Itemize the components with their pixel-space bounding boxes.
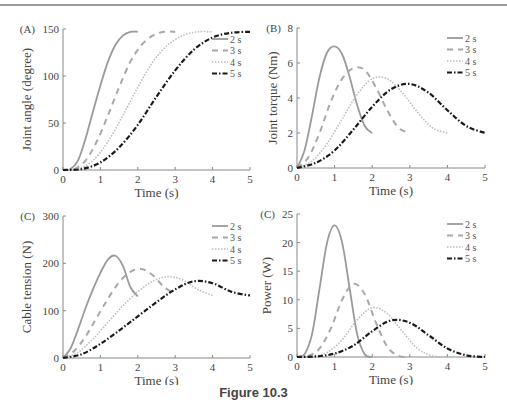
x-tick-label: 5 xyxy=(247,173,253,185)
x-axis-label: Time (s) xyxy=(369,183,413,198)
x-tick-label: 1 xyxy=(98,361,104,373)
legend-label: 2 s xyxy=(465,33,477,44)
x-tick-label: 4 xyxy=(445,360,451,372)
y-tick-label: 0 xyxy=(54,352,60,364)
legend-label: 4 s xyxy=(465,56,477,67)
figure-caption: Figure 10.3 xyxy=(0,385,507,400)
x-tick-label: 2 xyxy=(369,360,375,372)
legend-label: 4 s xyxy=(230,244,242,255)
chart-panel-2: 01234502468(B)Time (s)Joint torque (Nm)2… xyxy=(265,22,488,198)
series-line-3s xyxy=(63,32,175,171)
chart-panel-3: 0123450100200300(C)Time (s)Cable tension… xyxy=(19,210,253,385)
x-tick-label: 3 xyxy=(172,361,178,373)
y-tick-label: 5 xyxy=(288,322,294,334)
y-tick-label: 300 xyxy=(43,210,60,222)
legend-label: 3 s xyxy=(230,232,242,243)
x-axis-label: Time (s) xyxy=(135,373,179,385)
x-tick-label: 4 xyxy=(210,361,216,373)
x-tick-label: 4 xyxy=(210,173,216,185)
series-line-5s xyxy=(63,32,250,170)
x-tick-label: 1 xyxy=(332,171,338,183)
y-tick-label: 15 xyxy=(282,265,294,277)
legend-label: 2 s xyxy=(230,221,242,232)
chart-panel-1: 012345050100150(A)Time (s)Joint angle (d… xyxy=(19,23,253,200)
y-tick-label: 2 xyxy=(288,127,294,139)
figure-panels: 012345050100150(A)Time (s)Joint angle (d… xyxy=(0,0,507,385)
series-line-2s xyxy=(297,225,372,357)
legend-label: 5 s xyxy=(230,255,242,266)
y-tick-label: 25 xyxy=(282,208,294,220)
panel-label: (C) xyxy=(260,208,275,221)
legend-label: 3 s xyxy=(230,45,242,56)
legend-label: 4 s xyxy=(465,242,477,253)
x-tick-label: 2 xyxy=(135,361,141,373)
y-tick-label: 200 xyxy=(43,257,60,269)
y-axis-label: Joint torque (Nm) xyxy=(265,51,280,144)
y-axis-label: Cable tension (N) xyxy=(19,241,34,333)
panel-label: (C) xyxy=(20,210,35,223)
legend-label: 5 s xyxy=(465,253,477,264)
y-tick-label: 4 xyxy=(288,92,294,104)
legend-label: 5 s xyxy=(465,67,477,78)
y-tick-label: 0 xyxy=(288,351,294,363)
legend-label: 2 s xyxy=(465,219,477,230)
x-tick-label: 2 xyxy=(135,173,141,185)
legend-label: 5 s xyxy=(230,68,242,79)
series-line-3s xyxy=(63,269,175,358)
x-tick-label: 3 xyxy=(172,173,178,185)
y-tick-label: 150 xyxy=(43,23,60,35)
x-tick-label: 3 xyxy=(407,171,413,183)
x-axis-label: Time (s) xyxy=(135,185,179,200)
series-line-2s xyxy=(63,32,138,171)
x-tick-label: 1 xyxy=(98,173,104,185)
x-tick-label: 1 xyxy=(332,360,338,372)
series-line-2s xyxy=(63,255,138,358)
y-tick-label: 0 xyxy=(54,164,60,176)
x-tick-label: 0 xyxy=(294,360,300,372)
x-tick-label: 5 xyxy=(247,361,253,373)
legend-label: 3 s xyxy=(465,230,477,241)
y-tick-label: 100 xyxy=(43,305,60,317)
panel-label: (B) xyxy=(266,22,281,35)
y-tick-label: 20 xyxy=(282,237,294,249)
y-tick-label: 10 xyxy=(282,294,294,306)
x-tick-label: 0 xyxy=(60,361,66,373)
x-tick-label: 0 xyxy=(60,173,66,185)
x-tick-label: 5 xyxy=(482,171,488,183)
series-line-5s xyxy=(297,84,485,168)
y-tick-label: 6 xyxy=(288,57,294,69)
x-tick-label: 4 xyxy=(445,171,451,183)
y-axis-label: Joint angle (degree) xyxy=(19,48,34,151)
panel-label: (A) xyxy=(20,23,36,36)
x-axis-label: Time (s) xyxy=(369,372,413,385)
y-tick-label: 50 xyxy=(48,117,60,129)
x-tick-label: 5 xyxy=(482,360,488,372)
legend-label: 2 s xyxy=(230,34,242,45)
y-axis-label: Power (W) xyxy=(259,257,274,314)
y-tick-label: 100 xyxy=(43,70,60,82)
x-tick-label: 2 xyxy=(369,171,375,183)
chart-panel-4: 0123450510152025(C)Time (s)Power (W)2 s3… xyxy=(259,208,488,385)
x-tick-label: 0 xyxy=(294,171,300,183)
y-tick-label: 0 xyxy=(288,162,294,174)
y-tick-label: 8 xyxy=(288,22,294,34)
x-tick-label: 3 xyxy=(407,360,413,372)
legend-label: 3 s xyxy=(465,44,477,55)
legend-label: 4 s xyxy=(230,57,242,68)
